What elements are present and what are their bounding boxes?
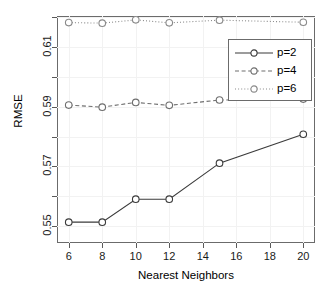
x-axis-tick [136, 243, 137, 248]
y-axis-tick [52, 77, 57, 78]
x-tick-label: 14 [188, 250, 218, 262]
x-axis-tick [270, 243, 271, 248]
gridline-horizontal [57, 166, 315, 167]
y-tick-label: 0.59 [41, 89, 53, 123]
x-axis-tick [203, 243, 204, 248]
x-axis-tick [69, 243, 70, 248]
gridline-horizontal [57, 107, 315, 108]
legend-item-p4: p=4 [229, 62, 311, 80]
x-axis-tick [303, 243, 304, 248]
y-tick-label: 0.57 [41, 148, 53, 182]
y-axis-tick [52, 137, 57, 138]
legend-label-p4: p=4 [277, 64, 297, 76]
rmse-vs-nearest-neighbors-chart: 68101214161820 0.550.570.590.61 Nearest … [0, 0, 333, 298]
gridline-horizontal [57, 196, 315, 197]
x-tick-label: 16 [221, 250, 251, 262]
y-axis-tick [52, 17, 57, 18]
gridline-vertical [136, 16, 137, 243]
legend-key-p2-icon [234, 44, 274, 62]
gridline-horizontal [57, 137, 315, 138]
chart-legend: p=2 p=4 p=6 [228, 39, 312, 101]
legend-label-p2: p=2 [277, 46, 297, 58]
x-tick-label: 10 [121, 250, 151, 262]
legend-key-p4-icon [234, 62, 274, 80]
x-tick-label: 20 [288, 250, 318, 262]
gridline-vertical [169, 16, 170, 243]
legend-item-p6: p=6 [229, 80, 311, 98]
x-axis-title: Nearest Neighbors [57, 269, 315, 281]
x-axis-tick [236, 243, 237, 248]
y-axis-title: RMSE [12, 81, 24, 141]
y-tick-label: 0.61 [41, 29, 53, 63]
gridline-vertical [102, 16, 103, 243]
x-tick-label: 12 [154, 250, 184, 262]
gridline-vertical [203, 16, 204, 243]
x-tick-label: 8 [87, 250, 117, 262]
gridline-horizontal [57, 226, 315, 227]
gridline-horizontal [57, 17, 315, 18]
legend-label-p6: p=6 [277, 82, 297, 94]
legend-key-p6-icon [234, 80, 274, 98]
legend-item-p2: p=2 [229, 44, 311, 62]
x-axis-tick [169, 243, 170, 248]
y-tick-label: 0.55 [41, 208, 53, 242]
x-axis-tick [102, 243, 103, 248]
x-tick-label: 6 [54, 250, 84, 262]
x-tick-label: 18 [255, 250, 285, 262]
y-axis-tick [52, 196, 57, 197]
gridline-vertical [69, 16, 70, 243]
